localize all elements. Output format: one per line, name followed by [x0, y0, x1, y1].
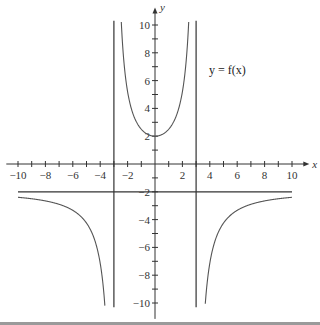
svg-text:y: y [159, 1, 165, 13]
svg-text:−2: −2 [122, 169, 134, 181]
svg-text:x: x [311, 158, 317, 170]
axes: −10−8−6−4−2246810−10−8−6−4−2246810xy [6, 1, 317, 318]
svg-text:10: 10 [287, 169, 299, 181]
svg-text:−8: −8 [40, 169, 52, 181]
function-label: y = f(x) [209, 63, 246, 78]
svg-text:−10: −10 [133, 297, 151, 309]
svg-text:2: 2 [180, 169, 186, 181]
svg-text:6: 6 [145, 75, 151, 87]
svg-text:−8: −8 [138, 269, 150, 281]
svg-text:8: 8 [145, 47, 151, 59]
svg-text:4: 4 [145, 102, 151, 114]
svg-text:4: 4 [207, 169, 213, 181]
svg-text:−10: −10 [9, 169, 27, 181]
svg-text:8: 8 [262, 169, 268, 181]
function-graph: −10−8−6−4−2246810−10−8−6−4−2246810xy [0, 0, 320, 325]
svg-text:6: 6 [234, 169, 240, 181]
svg-text:−6: −6 [67, 169, 79, 181]
svg-text:−6: −6 [138, 241, 150, 253]
svg-text:−4: −4 [138, 214, 150, 226]
svg-text:2: 2 [145, 130, 151, 142]
svg-text:10: 10 [139, 19, 151, 31]
svg-text:−4: −4 [94, 169, 106, 181]
